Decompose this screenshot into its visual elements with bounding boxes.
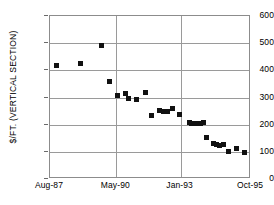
- gridline-horizontal: [50, 98, 249, 99]
- y-tick-mark: [44, 15, 48, 16]
- data-point: [107, 79, 112, 84]
- gridline-horizontal: [50, 152, 249, 153]
- y-tick-mark: [44, 151, 48, 152]
- data-point: [143, 90, 148, 95]
- x-tick-label: Oct-95: [225, 181, 274, 190]
- data-point: [99, 43, 104, 48]
- x-tick-label: May-90: [90, 181, 140, 190]
- data-point: [149, 113, 154, 118]
- gridline-horizontal: [50, 125, 249, 126]
- data-point: [221, 142, 226, 147]
- scatter-chart: $/FT. (VERTICAL SECTION) 010020030040050…: [0, 0, 274, 205]
- plot-area: [49, 15, 250, 178]
- data-point: [115, 93, 120, 98]
- data-point: [226, 149, 231, 154]
- data-point: [78, 61, 83, 66]
- x-tick-label: Jan-93: [155, 181, 205, 190]
- y-axis-title: $/FT. (VERTICAL SECTION): [8, 12, 18, 162]
- gridline-vertical: [181, 16, 182, 177]
- data-point: [54, 63, 59, 68]
- data-point: [242, 150, 247, 155]
- data-point: [204, 135, 209, 140]
- x-tick-label: Aug-87: [24, 181, 74, 190]
- data-point: [170, 106, 175, 111]
- data-point: [201, 120, 206, 125]
- data-point: [177, 112, 182, 117]
- data-point: [234, 146, 239, 151]
- y-tick-mark: [44, 97, 48, 98]
- y-tick-mark: [44, 178, 48, 179]
- gridline-horizontal: [50, 70, 249, 71]
- y-tick-mark: [44, 124, 48, 125]
- gridline-horizontal: [50, 43, 249, 44]
- data-point: [134, 97, 139, 102]
- y-tick-mark: [44, 42, 48, 43]
- y-tick-mark: [44, 69, 48, 70]
- data-point: [126, 96, 131, 101]
